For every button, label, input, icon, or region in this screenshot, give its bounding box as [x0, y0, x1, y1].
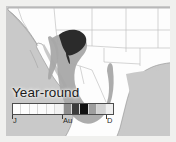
abundance-cell-8 — [80, 104, 88, 114]
abundance-cell-4 — [47, 104, 55, 114]
abundance-cell-7 — [72, 104, 80, 114]
abundance-cell-0 — [13, 104, 21, 114]
abundance-cell-5 — [55, 104, 63, 114]
abundance-cell-2 — [30, 104, 38, 114]
abundance-bar-chart — [12, 103, 114, 115]
abundance-cell-10 — [97, 104, 105, 114]
legend-title: Year-round — [12, 86, 128, 100]
abundance-cell-11 — [106, 104, 113, 114]
axis-label-jan: J — [13, 117, 17, 125]
abundance-axis: J Au D — [12, 115, 114, 127]
abundance-cell-1 — [21, 104, 29, 114]
abundance-cell-9 — [89, 104, 97, 114]
range-map-figure: Year-round J Au D — [0, 0, 176, 142]
axis-label-dec: D — [107, 117, 112, 125]
abundance-cell-3 — [38, 104, 46, 114]
axis-label-aug: Au — [63, 117, 72, 125]
abundance-cell-6 — [64, 104, 72, 114]
legend-panel: Year-round J Au D — [10, 86, 128, 127]
